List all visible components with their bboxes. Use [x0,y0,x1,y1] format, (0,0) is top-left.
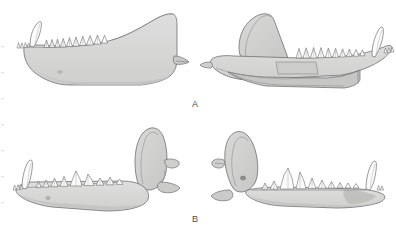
panel-label-a: A [192,100,198,109]
angular-process-a-left [173,56,189,64]
specimen-a-left [17,14,189,85]
mental-foramen-b-left [46,197,50,200]
specimen-a-right [200,14,394,88]
incisor-group-a-right [384,47,394,53]
specimen-b-left [13,128,180,211]
condyle-b-left [165,159,179,168]
mental-foramen-b-right [240,176,245,180]
mandible-body-a-left [24,14,177,85]
coronoid-process-b-right [225,131,258,192]
incisor-group-a-left [17,43,30,49]
angular-process-a-right [200,62,212,68]
mental-foramen-a-left [58,71,62,74]
mid-body-band-a-right [276,62,318,74]
panel-label-b: B [192,215,198,224]
figure-canvas: A B [0,0,396,229]
tooth-row-b-right [262,168,359,189]
scan-artifacts [1,46,4,203]
canine-b-right [366,161,376,190]
incisor-group-b-right [377,186,384,191]
angular-process-b-left [158,182,180,193]
specimen-b-right [211,131,385,208]
mandible-figure-illustration [0,0,396,229]
incisor-group-b-left [13,185,23,190]
angular-process-b-right [211,190,233,201]
